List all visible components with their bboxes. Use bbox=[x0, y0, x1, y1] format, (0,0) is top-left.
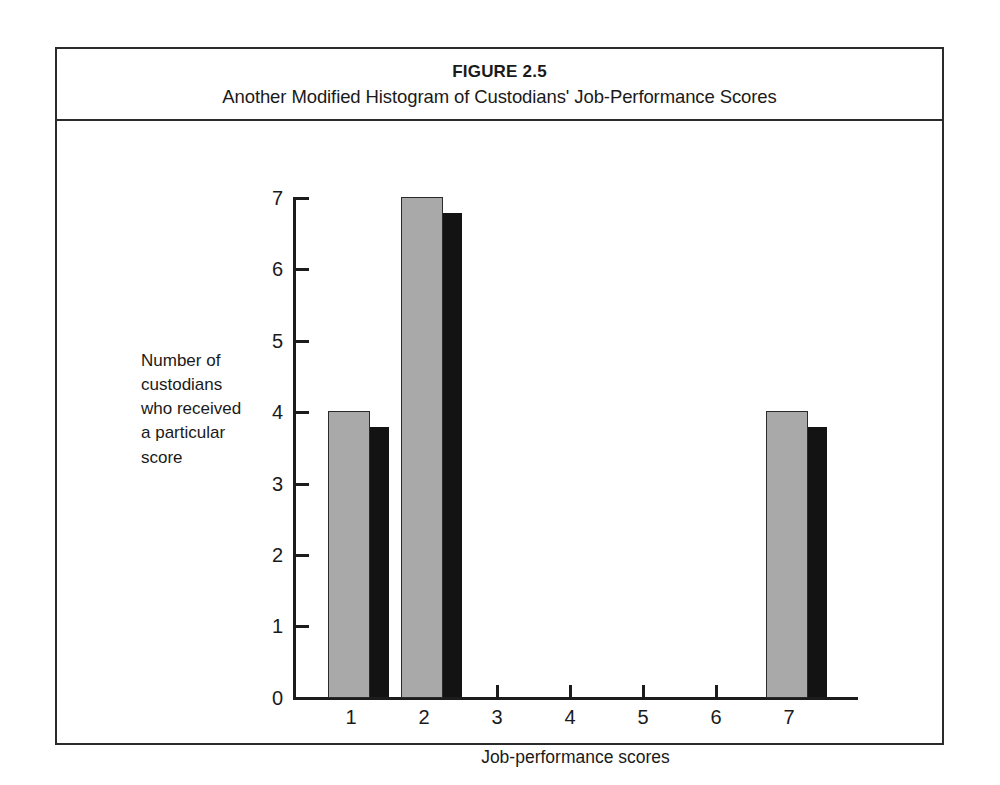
figure-number: FIGURE 2.5 bbox=[452, 61, 547, 82]
y-axis-tick-7 bbox=[296, 197, 309, 200]
x-axis-tick-label-4: 4 bbox=[550, 707, 590, 727]
bar-score-2-shadow bbox=[443, 213, 462, 697]
chart-plot-area: 0 1 2 3 4 5 6 7 1 2 3 4 5 6 7 bbox=[57, 121, 942, 745]
y-axis-title-line-5: score bbox=[141, 446, 291, 470]
figure-caption-band: FIGURE 2.5 Another Modified Histogram of… bbox=[57, 49, 942, 121]
x-axis-tick-4 bbox=[569, 685, 572, 698]
bar-score-1-shadow bbox=[370, 427, 389, 697]
y-axis-tick-label-5: 5 bbox=[243, 331, 283, 351]
x-axis-tick-5 bbox=[642, 685, 645, 698]
y-axis-tick-3 bbox=[296, 483, 309, 486]
x-axis-tick-label-1: 1 bbox=[331, 707, 371, 727]
y-axis-tick-label-1: 1 bbox=[243, 616, 283, 636]
x-axis-tick-label-3: 3 bbox=[477, 707, 517, 727]
y-axis-tick-4 bbox=[296, 411, 309, 414]
y-axis-tick-label-0: 0 bbox=[243, 688, 283, 708]
x-axis-title: Job-performance scores bbox=[293, 747, 858, 768]
x-axis-tick-6 bbox=[715, 685, 718, 698]
figure-title: Another Modified Histogram of Custodians… bbox=[222, 85, 776, 109]
y-axis-tick-1 bbox=[296, 625, 309, 628]
y-axis-tick-0 bbox=[296, 697, 309, 700]
y-axis-tick-6 bbox=[296, 268, 309, 271]
y-axis-title-line-1: Number of bbox=[141, 349, 291, 373]
y-axis-tick-label-7: 7 bbox=[243, 188, 283, 208]
y-axis-tick-2 bbox=[296, 554, 309, 557]
y-axis-title-line-4: a particular bbox=[141, 421, 291, 445]
y-axis-tick-label-2: 2 bbox=[243, 545, 283, 565]
bar-score-7-shadow bbox=[808, 427, 827, 697]
bar-score-1-face bbox=[328, 411, 370, 698]
figure-frame: FIGURE 2.5 Another Modified Histogram of… bbox=[55, 47, 944, 745]
y-axis-tick-label-3: 3 bbox=[243, 474, 283, 494]
x-axis-tick-3 bbox=[496, 685, 499, 698]
x-axis-tick-label-5: 5 bbox=[623, 707, 663, 727]
x-axis-tick-label-6: 6 bbox=[696, 707, 736, 727]
x-axis-tick-label-2: 2 bbox=[404, 707, 444, 727]
x-axis-tick-label-7: 7 bbox=[769, 707, 809, 727]
y-axis-title: Number of custodians who received a part… bbox=[141, 349, 291, 470]
y-axis-title-line-2: custodians bbox=[141, 373, 291, 397]
y-axis-tick-label-6: 6 bbox=[243, 259, 283, 279]
bar-score-2-face bbox=[401, 197, 443, 698]
y-axis-title-line-3: who received bbox=[141, 397, 291, 421]
bar-score-7-face bbox=[766, 411, 808, 698]
y-axis-tick-5 bbox=[296, 340, 309, 343]
